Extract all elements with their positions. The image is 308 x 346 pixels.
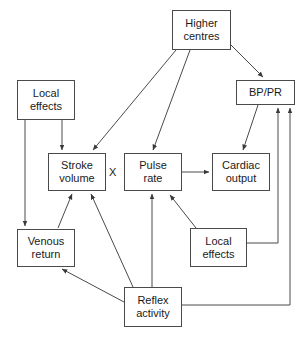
edge-reflex-activity-to-stroke-volume [91,194,133,287]
node-higher-centres[interactable]: Higher centres [172,10,231,50]
edge-higher-centres-to-pulse-rate [153,50,190,150]
node-bp-pr[interactable]: BP/PR [236,80,295,105]
node-reflex-activity[interactable]: Reflex activity [124,287,182,327]
node-venous-return[interactable]: Venous return [17,229,75,267]
operator-multiply: X [109,166,116,178]
node-stroke-volume[interactable]: Stroke volume [48,153,106,191]
node-local-effects-lower[interactable]: Local effects [190,228,247,267]
node-cardiac-output[interactable]: Cardiac output [212,153,270,191]
edge-local-effects-lower-to-pulse-rate [170,195,196,228]
edge-venous-return-to-stroke-volume [58,194,72,228]
edge-bp-pr-to-cardiac-output [243,105,258,150]
edge-reflex-activity-to-bp-pr [182,108,290,305]
flow-diagram: Higher centresBP/PRLocal effectsStroke v… [0,0,308,346]
node-pulse-rate[interactable]: Pulse rate [124,153,182,191]
edge-higher-centres-to-bp-pr [231,45,263,77]
edge-higher-centres-to-stroke-volume [93,50,176,150]
node-local-effects-upper[interactable]: Local effects [17,80,75,120]
edge-reflex-activity-to-venous-return [62,269,124,302]
